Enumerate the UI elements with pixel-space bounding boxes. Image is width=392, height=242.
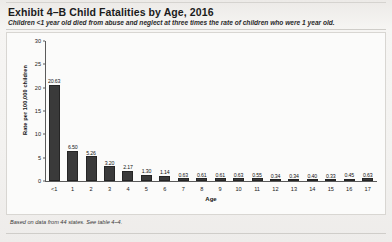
bar-rect[interactable]	[178, 178, 189, 181]
bar-value-label: 2.17	[123, 164, 133, 170]
bar-value-label: 6.50	[68, 144, 78, 150]
x-axis-tick-label: 14	[303, 183, 321, 195]
x-axis-tick-label: 1	[63, 183, 81, 195]
bar-rect[interactable]	[307, 179, 318, 181]
bar-item[interactable]: 6.50	[63, 41, 81, 181]
bar-rect[interactable]	[159, 176, 170, 181]
footer-divider	[6, 233, 386, 234]
y-axis-title: Rate per 100,000 children	[22, 52, 28, 148]
bar-item[interactable]: 0.63	[174, 41, 192, 181]
x-axis-tick-label: 11	[248, 183, 266, 195]
bar-item[interactable]: 0.61	[193, 41, 211, 181]
bar-item[interactable]: 0.45	[340, 41, 358, 181]
bar-rect[interactable]	[104, 166, 115, 181]
bar-value-label: 1.14	[160, 169, 170, 175]
bar-value-label: 0.63	[179, 172, 189, 178]
bar-item[interactable]: 5.26	[82, 41, 100, 181]
x-axis-tick-label: 4	[119, 183, 137, 195]
x-axis-tick-label: 15	[322, 183, 340, 195]
x-axis-tick-label: 13	[285, 183, 303, 195]
bar-value-label: 1.30	[142, 168, 152, 174]
bar-value-label: 20.63	[48, 78, 60, 84]
chart-plot-host: Rate per 100,000 children 051015202530 2…	[7, 33, 387, 216]
bar-rect[interactable]	[67, 151, 78, 181]
bar-value-label: 0.61	[197, 172, 207, 178]
bar-value-label: 0.61	[215, 172, 225, 178]
bar-value-label: 0.55	[252, 172, 262, 178]
bar-item[interactable]: 0.63	[358, 41, 376, 181]
x-axis-tick-label: 6	[156, 183, 174, 195]
bar-rect[interactable]	[362, 178, 373, 181]
x-axis-line	[45, 181, 377, 182]
bar-rect[interactable]	[270, 179, 281, 181]
bar-rect[interactable]	[86, 156, 97, 181]
header-divider	[6, 29, 386, 30]
bar-value-label: 0.34	[289, 173, 299, 179]
x-axis-tick-label: 12	[266, 183, 284, 195]
bar-rect[interactable]	[288, 179, 299, 181]
bar-item[interactable]: 3.20	[100, 41, 118, 181]
bar-value-label: 5.26	[86, 150, 96, 156]
x-axis-tick-label: 3	[100, 183, 118, 195]
chart-frame: Rate per 100,000 children 051015202530 2…	[6, 32, 386, 215]
bar-item[interactable]: 0.40	[303, 41, 321, 181]
bar-item[interactable]: 0.63	[229, 41, 247, 181]
bar-rect[interactable]	[344, 179, 355, 181]
bar-series: 20.636.505.263.202.171.301.140.630.610.6…	[45, 41, 377, 181]
x-axis-tick-label: 2	[82, 183, 100, 195]
bar-item[interactable]: 0.34	[285, 41, 303, 181]
bar-item[interactable]: 1.14	[156, 41, 174, 181]
bar-value-label: 0.63	[363, 172, 373, 178]
x-axis-ticks: <11234567891011121314151617	[45, 183, 377, 195]
bar-rect[interactable]	[252, 178, 263, 181]
bar-rect[interactable]	[233, 178, 244, 181]
footnote: Based on data from 44 states. See table …	[10, 219, 122, 225]
bar-item[interactable]: 2.17	[119, 41, 137, 181]
bar-value-label: 0.33	[326, 173, 336, 179]
bar-item[interactable]: 0.33	[322, 41, 340, 181]
x-axis-tick-label: 10	[229, 183, 247, 195]
bar-value-label: 3.20	[105, 160, 115, 166]
x-axis-tick-label: 7	[174, 183, 192, 195]
top-divider	[6, 2, 386, 3]
bar-rect[interactable]	[122, 171, 133, 181]
x-axis-tick-label: 5	[137, 183, 155, 195]
x-axis-title: Age	[45, 196, 377, 202]
x-axis-tick-label: 8	[193, 183, 211, 195]
title-block: Exhibit 4–B Child Fatalities by Age, 201…	[8, 6, 384, 27]
bar-rect[interactable]	[141, 175, 152, 181]
bar-value-label: 0.34	[271, 173, 281, 179]
x-axis-tick-label: 16	[340, 183, 358, 195]
bar-rect[interactable]	[325, 179, 336, 181]
bar-item[interactable]: 0.34	[266, 41, 284, 181]
bar-value-label: 0.40	[308, 173, 318, 179]
exhibit-page: Exhibit 4–B Child Fatalities by Age, 201…	[0, 0, 392, 242]
bar-item[interactable]: 0.55	[248, 41, 266, 181]
bar-item[interactable]: 20.63	[45, 41, 63, 181]
page-subtitle: Children <1 year old died from abuse and…	[8, 19, 384, 27]
page-title: Exhibit 4–B Child Fatalities by Age, 201…	[8, 6, 384, 18]
bar-rect[interactable]	[215, 178, 226, 181]
x-axis-tick-label: 17	[358, 183, 376, 195]
bar-rect[interactable]	[49, 85, 60, 181]
plot-area: 051015202530 20.636.505.263.202.171.301.…	[45, 41, 377, 181]
bar-rect[interactable]	[196, 178, 207, 181]
bar-item[interactable]: 0.61	[211, 41, 229, 181]
bar-value-label: 0.45	[344, 172, 354, 178]
x-axis-tick-label: <1	[45, 183, 63, 195]
bar-item[interactable]: 1.30	[137, 41, 155, 181]
bar-value-label: 0.63	[234, 172, 244, 178]
x-axis-tick-label: 9	[211, 183, 229, 195]
